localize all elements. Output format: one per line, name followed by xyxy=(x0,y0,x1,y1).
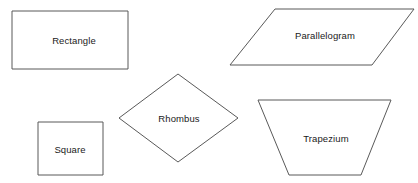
trapezium-label: Trapezium xyxy=(303,133,348,144)
shapes-diagram: Rectangle Parallelogram Rhombus Square T… xyxy=(0,0,418,183)
rectangle-label: Rectangle xyxy=(52,35,96,46)
parallelogram-label: Parallelogram xyxy=(295,30,355,41)
square-label: Square xyxy=(54,144,85,155)
shapes-canvas xyxy=(0,0,418,183)
rhombus-label: Rhombus xyxy=(158,113,199,124)
